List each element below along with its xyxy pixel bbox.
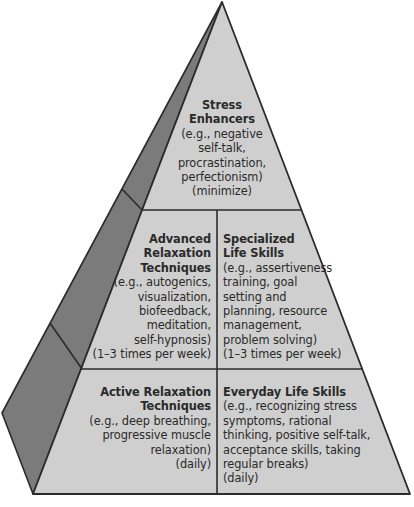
tier-detail-line: (daily): [223, 471, 383, 485]
tier-detail-line: (1–3 times per week): [90, 347, 211, 361]
tier-title-line: Techniques: [90, 261, 211, 275]
tier-detail-line: meditation,: [90, 318, 211, 332]
tier-advanced-relaxation: Advanced Relaxation Techniques (e.g., au…: [90, 232, 211, 362]
tier-detail-line: regular breaks): [223, 457, 383, 471]
tier-detail-line: self-talk,: [152, 141, 292, 155]
tier-detail-line: (e.g., negative: [152, 127, 292, 141]
tier-detail-line: thinking, positive self-talk,: [223, 428, 383, 442]
tier-specialized-life-skills: Specialized Life Skills (e.g., assertive…: [223, 232, 353, 362]
tier-title-line: Advanced: [90, 232, 211, 246]
tier-detail-line: perfectionism): [152, 170, 292, 184]
tier-title-line: Life Skills: [223, 246, 353, 260]
tier-detail-line: planning, resource: [223, 304, 353, 318]
tier-title-line: Enhancers: [152, 112, 292, 126]
tier-detail-line: biofeedback,: [90, 304, 211, 318]
tier-detail-line: (e.g., deep breathing,: [70, 414, 211, 428]
tier-detail-line: setting and: [223, 290, 353, 304]
tier-title-line: Active Relaxation: [70, 385, 211, 399]
tier-detail-line: management,: [223, 318, 353, 332]
tier-detail-line: relaxation): [70, 443, 211, 457]
tier-detail-line: (e.g., autogenics,: [90, 275, 211, 289]
tier-active-relaxation: Active Relaxation Techniques (e.g., deep…: [70, 385, 211, 471]
tier-detail-line: procrastination,: [152, 156, 292, 170]
tier-detail-line: progressive muscle: [70, 428, 211, 442]
tier-title-line: Specialized: [223, 232, 353, 246]
tier-detail-line: (e.g., recognizing stress: [223, 399, 383, 413]
tier-detail-line: visualization,: [90, 290, 211, 304]
tier-detail-line: (minimize): [152, 184, 292, 198]
tier-detail-line: (1–3 times per week): [223, 347, 353, 361]
tier-title-line: Techniques: [70, 399, 211, 413]
tier-title-line: Relaxation: [90, 246, 211, 260]
tier-stress-enhancers: Stress Enhancers (e.g., negative self-ta…: [152, 98, 292, 199]
tier-title-line: Stress: [152, 98, 292, 112]
tier-detail-line: acceptance skills, taking: [223, 443, 383, 457]
tier-detail-line: (daily): [70, 457, 211, 471]
tier-detail-line: self-hypnosis): [90, 333, 211, 347]
tier-everyday-life-skills: Everyday Life Skills (e.g., recognizing …: [223, 385, 383, 486]
tier-detail-line: problem solving): [223, 333, 353, 347]
tier-detail-line: training, goal: [223, 275, 353, 289]
tier-detail-line: symptoms, rational: [223, 414, 383, 428]
tier-detail-line: (e.g., assertiveness: [223, 261, 353, 275]
tier-title-line: Everyday Life Skills: [223, 385, 383, 399]
